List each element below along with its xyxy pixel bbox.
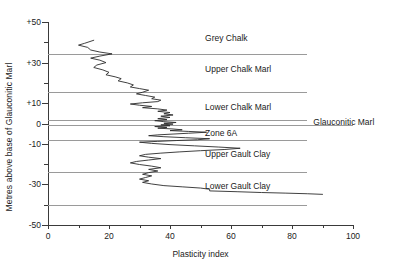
y-tick-label: -50: [29, 220, 41, 230]
y-tick-label: -10: [29, 139, 41, 149]
x-tick-label-40: 40: [165, 231, 174, 241]
x-minor-tick-mark: [201, 225, 202, 228]
y-axis-title: Metres above base of Glauconitic Marl: [0, 0, 18, 274]
x-tick-label-100: 100: [346, 231, 360, 241]
y-tick-label: 0: [36, 119, 41, 129]
y-tick-label: +30: [27, 58, 41, 68]
y-tick-label: +10: [27, 98, 41, 108]
x-tick-mark: [292, 225, 293, 229]
x-minor-tick-mark: [140, 225, 141, 228]
x-tick-mark: [170, 225, 171, 229]
x-tick-label-0: 0: [46, 231, 51, 241]
plasticity-curve: [48, 22, 353, 225]
x-tick-label-20: 20: [104, 231, 113, 241]
x-minor-tick-mark: [262, 225, 263, 228]
x-tick-label-80: 80: [287, 231, 296, 241]
x-tick-mark: [48, 225, 49, 229]
x-minor-tick-mark: [323, 225, 324, 228]
x-tick-mark: [231, 225, 232, 229]
x-tick-mark: [109, 225, 110, 229]
plasticity-curve-path: [79, 40, 323, 194]
x-minor-tick-mark: [79, 225, 80, 228]
y-tick-label: +50: [27, 17, 41, 27]
x-axis-title: Plasticity index: [48, 249, 353, 259]
y-tick-label: -30: [29, 179, 41, 189]
x-tick-label-60: 60: [226, 231, 235, 241]
x-tick-mark: [353, 225, 354, 229]
plasticity-index-profile-chart: Metres above base of Glauconitic Marl Pl…: [0, 0, 398, 274]
plot-area: Grey ChalkUpper Chalk MarlLower Chalk Ma…: [48, 22, 353, 225]
